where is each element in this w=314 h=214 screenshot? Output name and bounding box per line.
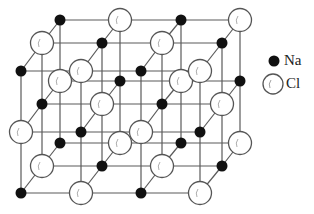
na-atom	[97, 161, 108, 172]
na-atom	[176, 15, 187, 26]
cl-legend-label: Cl	[286, 75, 300, 92]
na-atom	[55, 138, 66, 149]
na-atom	[217, 38, 228, 49]
cl-atom	[31, 32, 54, 55]
na-atom	[157, 99, 168, 110]
na-legend-icon	[269, 56, 280, 67]
na-atom	[97, 38, 108, 49]
cl-atom	[49, 70, 72, 93]
na-atom	[235, 76, 246, 87]
na-atom	[55, 15, 66, 26]
cl-atom	[91, 93, 114, 116]
cl-atom	[151, 155, 174, 178]
cl-atom	[130, 121, 153, 144]
cl-atom	[109, 9, 132, 32]
cl-atom	[10, 121, 33, 144]
na-atom	[136, 66, 147, 77]
na-atom	[16, 188, 27, 199]
cl-atom	[211, 93, 234, 116]
na-atom	[217, 161, 228, 172]
cl-atom	[70, 182, 93, 205]
na-atom	[16, 66, 27, 77]
cl-atom	[189, 60, 212, 83]
na-atom	[176, 138, 187, 149]
na-legend-label: Na	[284, 52, 302, 69]
na-atom	[37, 99, 48, 110]
cl-atom	[229, 132, 252, 155]
cl-atom	[31, 155, 54, 178]
na-atom	[76, 127, 87, 138]
cl-atom	[229, 9, 252, 32]
cl-atom	[109, 132, 132, 155]
cl-atom	[70, 60, 93, 83]
cl-atom	[151, 32, 174, 55]
na-atom	[136, 188, 147, 199]
na-atom	[195, 127, 206, 138]
cl-legend-icon	[263, 74, 283, 94]
legend	[263, 56, 283, 95]
cl-atom	[189, 182, 212, 205]
na-atom	[115, 76, 126, 87]
nacl-lattice-diagram	[0, 0, 314, 214]
